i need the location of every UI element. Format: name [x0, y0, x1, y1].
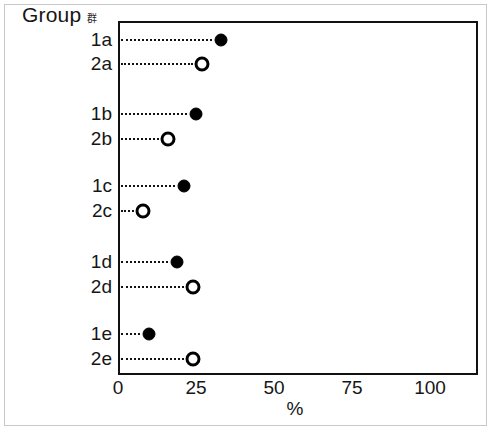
- chart-header: Group 群: [22, 4, 97, 25]
- data-row: 2d: [0, 277, 491, 297]
- leader-line-2a: [121, 63, 193, 65]
- data-row: 1e: [0, 324, 491, 344]
- plot-area: [118, 21, 478, 375]
- leader-line-2b: [121, 138, 159, 140]
- leader-line-1b: [121, 113, 187, 115]
- data-point-2a: [195, 57, 210, 72]
- row-label-2c: 2c: [42, 201, 112, 221]
- data-point-1a: [214, 34, 227, 47]
- data-row: 2c: [0, 201, 491, 221]
- data-row: 1a: [0, 30, 491, 50]
- x-tick-label-25: 25: [185, 378, 206, 398]
- data-point-2c: [135, 204, 150, 219]
- data-row: 1c: [0, 176, 491, 196]
- x-tick-label-75: 75: [341, 378, 362, 398]
- page-title: Group: [22, 4, 81, 25]
- row-label-1a: 1a: [42, 30, 112, 50]
- x-axis-label: %: [287, 399, 304, 419]
- x-tick-label-0: 0: [113, 378, 124, 398]
- data-point-1c: [177, 180, 190, 193]
- data-row: 1d: [0, 252, 491, 272]
- leader-line-1e: [121, 333, 140, 335]
- leader-line-1a: [121, 39, 212, 41]
- leader-line-1d: [121, 261, 168, 263]
- leader-line-2d: [121, 286, 184, 288]
- x-tick-label-100: 100: [414, 378, 446, 398]
- data-point-1b: [190, 108, 203, 121]
- row-label-2b: 2b: [42, 129, 112, 149]
- row-label-1b: 1b: [42, 104, 112, 124]
- row-label-1c: 1c: [42, 176, 112, 196]
- data-row: 1b: [0, 104, 491, 124]
- row-label-2e: 2e: [42, 349, 112, 369]
- data-point-2e: [185, 352, 200, 367]
- row-label-1d: 1d: [42, 252, 112, 272]
- chart-page: Group 群 1a2a1b2b1c2c1d2d1e2e 0255075100 …: [0, 0, 491, 430]
- title-annotation-cjk: 群: [87, 14, 97, 24]
- leader-line-2e: [121, 358, 184, 360]
- data-point-1e: [143, 328, 156, 341]
- row-label-2a: 2a: [42, 54, 112, 74]
- data-row: 2b: [0, 129, 491, 149]
- data-row: 2e: [0, 349, 491, 369]
- leader-line-1c: [121, 185, 175, 187]
- data-point-2b: [160, 132, 175, 147]
- data-point-2d: [185, 280, 200, 295]
- data-point-1d: [171, 256, 184, 269]
- row-label-2d: 2d: [42, 277, 112, 297]
- x-tick-label-50: 50: [263, 378, 284, 398]
- data-row: 2a: [0, 54, 491, 74]
- leader-line-2c: [121, 210, 134, 212]
- row-label-1e: 1e: [42, 324, 112, 344]
